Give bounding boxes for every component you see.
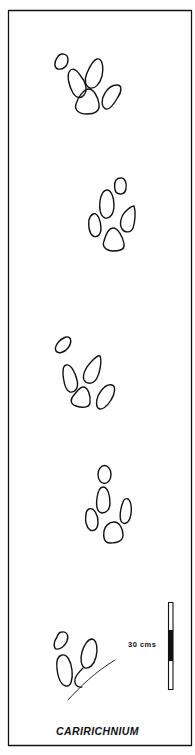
figure-caption: CARIRICHNIUM [0,725,195,737]
figure-frame [9,11,192,746]
digit-pad [85,59,102,88]
digit-pad [86,509,98,531]
scale-bar-label: 30 cms [128,640,156,649]
scale-bar-segment-black [169,630,174,661]
trackway-figure [0,0,195,755]
digit-pad [121,206,136,232]
digit-pad [81,639,97,668]
footprint-3 [55,337,114,409]
digit-pad [57,655,73,686]
footprint-2 [89,178,135,251]
digit-pad [120,499,131,524]
digit-pad [98,466,111,484]
digit-pad [97,385,115,409]
footprint-4 [86,466,132,544]
digit-pad [97,487,110,513]
digit-pad [71,387,90,407]
digit-pad [55,337,70,353]
footprint-1 [55,54,121,114]
digit-pad [100,190,114,218]
connecting-curve [75,668,83,687]
digit-pad [54,632,68,649]
digit-pad [83,356,100,383]
digit-pad [63,365,78,392]
digit-pad [89,214,101,237]
footprint-5 [54,632,115,700]
digit-pad [68,69,86,97]
digit-pad [55,54,68,69]
digit-pad [103,228,124,251]
digit-pad [76,89,100,114]
scale-bar [169,603,174,690]
digit-pad [115,178,127,194]
digit-pad [102,85,121,109]
digit-pad [104,522,123,543]
